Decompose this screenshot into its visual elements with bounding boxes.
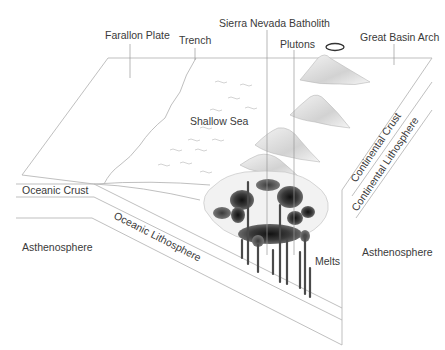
label-asthenosphere-left: Asthenosphere <box>22 241 93 253</box>
label-plutons: Plutons <box>280 38 315 50</box>
mountains <box>240 55 370 178</box>
mountain-1 <box>300 55 370 85</box>
great-basin-arch-icon <box>326 44 344 51</box>
label-oceanic-crust: Oceanic Crust <box>22 184 89 196</box>
label-farallon-plate: Farallon Plate <box>105 29 170 41</box>
subduction-block-diagram: Farallon Plate Trench Sierra Nevada Bath… <box>0 0 445 350</box>
mountain-2 <box>290 95 350 128</box>
label-oceanic-lithosphere: Oceanic Lithosphere <box>112 209 203 263</box>
label-sierra-nevada-batholith: Sierra Nevada Batholith <box>219 17 330 29</box>
shallow-sea-waves <box>158 81 257 173</box>
trench-line <box>104 58 196 184</box>
label-great-basin-arch: Great Basin Arch <box>360 31 440 43</box>
label-melts: Melts <box>315 255 340 267</box>
label-asthenosphere-right: Asthenosphere <box>362 246 433 258</box>
label-shallow-sea: Shallow Sea <box>190 115 249 127</box>
label-trench: Trench <box>179 34 211 46</box>
